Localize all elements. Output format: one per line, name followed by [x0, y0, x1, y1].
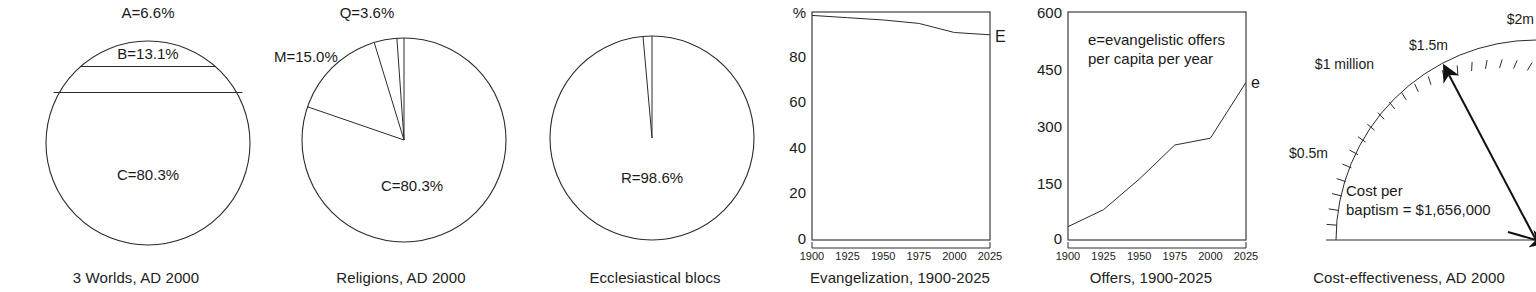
- offers-xtick-2000: 2000: [1198, 250, 1222, 262]
- panel-caption-evangelization: Evangelization, 1900-2025: [780, 269, 1020, 286]
- religions-label-m: M=15.0%: [274, 48, 338, 65]
- evangelization-xaxis-rule: [812, 242, 990, 248]
- evangelization-xtick-1900: 1900: [800, 250, 824, 262]
- offers-ytick-150: 150: [1037, 175, 1062, 192]
- panel-religions: Q=3.6% M=15.0% C=80.3% Religions, AD 200…: [272, 0, 530, 292]
- chart-blocs: R=98.6%: [530, 0, 780, 292]
- offers-note-line1: e=evangelistic offers: [1088, 31, 1225, 48]
- evangelization-xtick-1975: 1975: [907, 250, 931, 262]
- worlds-label-c: C=80.3%: [117, 166, 179, 183]
- religions-label-q: Q=3.6%: [340, 4, 395, 21]
- offers-xtick-1900: 1900: [1056, 250, 1080, 262]
- offers-ytick-0: 0: [1054, 230, 1062, 247]
- evangelization-ytick-60: 60: [789, 93, 806, 110]
- worlds-label-b: B=13.1%: [117, 45, 178, 62]
- figure-sixpanel: A=6.6% B=13.1% C=80.3% 3 Worlds, AD 2000…: [0, 0, 1536, 292]
- evangelization-plot-frame: [812, 12, 990, 240]
- offers-xtick-2025: 2025: [1234, 250, 1258, 262]
- gauge-note-line2: baptism = $1,656,000: [1346, 201, 1491, 218]
- offers-xaxis-rule: [1068, 242, 1246, 248]
- gauge-tick-label-1m: $1 million: [1315, 56, 1374, 72]
- evangelization-series-label: E: [995, 28, 1006, 45]
- chart-religions: Q=3.6% M=15.0% C=80.3%: [272, 0, 530, 292]
- evangelization-ytick-80: 80: [789, 48, 806, 65]
- offers-xtick-1975: 1975: [1163, 250, 1187, 262]
- panel-ecclesiastical-blocs: R=98.6% Ecclesiastical blocs: [530, 0, 780, 292]
- evangelization-xtick-2000: 2000: [942, 250, 966, 262]
- chart-cost-gauge: $0.5m $1 million $1.5m $2m Cost per bapt…: [1282, 0, 1536, 292]
- evangelization-ytick-0: 0: [798, 230, 806, 247]
- offers-xtick-1925: 1925: [1091, 250, 1115, 262]
- chart-3-worlds: A=6.6% B=13.1% C=80.3%: [0, 0, 272, 292]
- offers-ytick-300: 300: [1037, 118, 1062, 135]
- offers-xtick-1950: 1950: [1127, 250, 1151, 262]
- gauge-tick-label-05m: $0.5m: [1289, 145, 1328, 161]
- gauge-note-line1: Cost per: [1346, 182, 1403, 199]
- panel-caption-offers: Offers, 1900-2025: [1020, 269, 1282, 286]
- panel-3-worlds: A=6.6% B=13.1% C=80.3% 3 Worlds, AD 2000: [0, 0, 272, 292]
- panel-caption-religions: Religions, AD 2000: [272, 269, 530, 286]
- evangelization-xtick-1950: 1950: [871, 250, 895, 262]
- chart-offers: 600 450 300 150 0 1900 1925 1950 1975 20…: [1020, 0, 1282, 292]
- panel-caption-blocs: Ecclesiastical blocs: [530, 269, 780, 286]
- gauge-tick-label-15m: $1.5m: [1409, 37, 1448, 53]
- panel-cost-effectiveness: $0.5m $1 million $1.5m $2m Cost per bapt…: [1282, 0, 1536, 292]
- evangelization-ytick-pct: %: [793, 4, 806, 21]
- worlds-circle: [46, 41, 250, 245]
- offers-ytick-450: 450: [1037, 61, 1062, 78]
- blocs-label-r: R=98.6%: [621, 169, 683, 186]
- evangelization-ytick-40: 40: [789, 139, 806, 156]
- evangelization-ytick-20: 20: [789, 184, 806, 201]
- evangelization-xtick-2025: 2025: [978, 250, 1002, 262]
- panel-caption-3-worlds: 3 Worlds, AD 2000: [0, 269, 272, 286]
- offers-series-label: e: [1251, 74, 1260, 91]
- gauge-tick-label-2m: $2m: [1507, 11, 1534, 27]
- evangelization-xtick-1925: 1925: [835, 250, 859, 262]
- religions-label-c: C=80.3%: [381, 177, 443, 194]
- worlds-label-a: A=6.6%: [122, 4, 175, 21]
- offers-note-line2: per capita per year: [1088, 50, 1213, 67]
- panel-offers: 600 450 300 150 0 1900 1925 1950 1975 20…: [1020, 0, 1282, 292]
- offers-ytick-600: 600: [1037, 4, 1062, 21]
- panel-caption-cost: Cost-effectiveness, AD 2000: [1282, 269, 1536, 286]
- panel-evangelization: % 80 60 40 20 0 1900 1925 1950 1975 2000…: [780, 0, 1020, 292]
- chart-evangelization: % 80 60 40 20 0 1900 1925 1950 1975 2000…: [780, 0, 1020, 292]
